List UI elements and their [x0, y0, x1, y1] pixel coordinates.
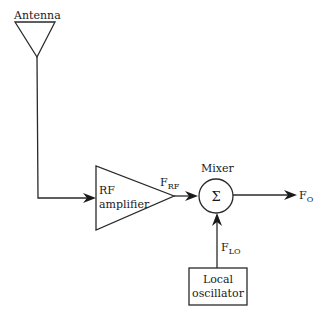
- local-oscillator-label-line1: Local: [203, 273, 234, 286]
- rf-amplifier-label-line1: RF: [99, 184, 115, 197]
- antenna-feed-line: [37, 57, 90, 198]
- flo-label: FLO: [221, 241, 241, 256]
- frf-sub: RF: [168, 182, 180, 191]
- flo-sub: LO: [229, 247, 241, 256]
- rf-amplifier-label-line2: amplifier: [99, 198, 150, 211]
- antenna-symbol: [15, 22, 55, 57]
- block-diagram: Antenna RF amplifier FRF Mixer Σ FO FLO …: [0, 0, 323, 320]
- fo-label: FO: [299, 189, 314, 204]
- mixer-label: Mixer: [201, 162, 234, 175]
- local-oscillator-label-line2: oscillator: [192, 287, 245, 300]
- antenna-label: Antenna: [13, 9, 61, 22]
- frf-label: FRF: [160, 176, 180, 191]
- fo-sub: O: [307, 195, 314, 204]
- mixer-sigma-symbol: Σ: [211, 189, 220, 204]
